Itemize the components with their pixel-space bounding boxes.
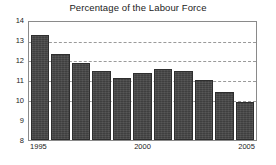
bar[interactable] (133, 73, 151, 140)
x-axis-tick-label: 2000 (134, 143, 151, 151)
y-axis-tick-label: 9 (20, 117, 24, 125)
plot-area (28, 21, 257, 141)
bar[interactable] (92, 71, 110, 140)
bar-slot (30, 22, 50, 140)
y-axis: 891011121314 (0, 21, 28, 141)
bar-slot (132, 22, 152, 140)
bar-slot (112, 22, 132, 140)
bar-series (29, 22, 256, 140)
bar[interactable] (51, 54, 69, 140)
chart-title: Percentage of the Labour Force (0, 2, 276, 13)
bar-slot (91, 22, 111, 140)
x-axis-tick-label: 2005 (238, 143, 255, 151)
y-axis-tick-label: 8 (20, 137, 24, 145)
bar[interactable] (215, 92, 233, 140)
y-axis-tick-label: 11 (16, 77, 24, 85)
bar[interactable] (113, 78, 131, 140)
bar[interactable] (31, 35, 49, 140)
bar-slot (71, 22, 91, 140)
bar-slot (50, 22, 70, 140)
bar[interactable] (72, 63, 90, 140)
y-axis-tick-label: 10 (16, 97, 24, 105)
y-axis-tick-label: 12 (16, 57, 24, 65)
bar-slot (173, 22, 193, 140)
chart-container: Percentage of the Labour Force 891011121… (0, 0, 276, 165)
bar[interactable] (236, 102, 254, 140)
x-axis-tick-label: 1995 (30, 143, 47, 151)
bar-slot (235, 22, 255, 140)
bar[interactable] (195, 80, 213, 140)
bar-slot (153, 22, 173, 140)
y-axis-tick-label: 14 (16, 17, 24, 25)
bar[interactable] (174, 71, 192, 140)
bar-slot (214, 22, 234, 140)
bar-slot (194, 22, 214, 140)
bar[interactable] (154, 69, 172, 140)
y-axis-tick-label: 13 (16, 37, 24, 45)
x-axis: 199520002005 (28, 143, 257, 157)
